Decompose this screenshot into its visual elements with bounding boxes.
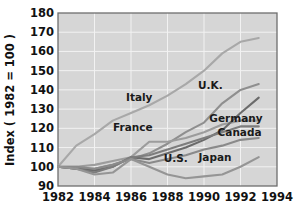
x-tick-label: 1984 — [78, 190, 110, 204]
x-tick-label: 1988 — [151, 190, 183, 204]
y-tick-label: 170 — [30, 25, 54, 39]
series-label-japan: Japan — [197, 151, 231, 163]
y-axis-ticks: 90100110120130140150160170180 — [30, 6, 54, 193]
series-label-italy: Italy — [126, 91, 153, 103]
y-axis-title: Index ( 1982 = 100 ) — [3, 34, 17, 166]
y-tick-label: 130 — [30, 102, 54, 116]
y-tick-label: 140 — [30, 83, 54, 97]
y-tick-label: 120 — [30, 121, 54, 135]
y-tick-label: 110 — [30, 141, 54, 155]
series-label-uk: U.K. — [198, 79, 223, 91]
chart-screenshot: 90100110120130140150160170180 1982198419… — [0, 0, 300, 223]
series-label-us: U.S. — [164, 152, 188, 164]
x-tick-label: 1982 — [42, 190, 74, 204]
x-tick-label: 1986 — [115, 190, 147, 204]
series-label-france: France — [113, 121, 153, 133]
series-label-canada: Canada — [218, 126, 262, 138]
y-tick-label: 160 — [30, 44, 54, 58]
y-tick-label: 100 — [30, 160, 54, 174]
line-chart: 90100110120130140150160170180 1982198419… — [0, 0, 300, 223]
y-tick-label: 150 — [30, 64, 54, 78]
x-tick-label: 1992 — [224, 190, 256, 204]
series-label-germany: Germany — [209, 112, 262, 124]
y-tick-label: 180 — [30, 6, 54, 20]
x-tick-label: 1990 — [188, 190, 220, 204]
x-tick-label: 1994 — [261, 190, 293, 204]
x-axis-ticks: 1982198419861988199019921994 — [42, 190, 293, 204]
